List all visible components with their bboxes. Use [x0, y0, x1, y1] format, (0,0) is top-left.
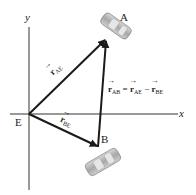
point-e-label: E — [15, 117, 22, 128]
y-axis-label: y — [25, 12, 30, 23]
vector-r-ae — [29, 40, 105, 114]
x-axis-label: x — [179, 108, 184, 119]
equation-r-ab: rAB = rAE − rBE — [108, 85, 163, 95]
vector-diagram — [0, 0, 196, 195]
car-b-icon — [84, 147, 122, 177]
point-a-label: A — [120, 12, 128, 23]
point-b-label: B — [101, 134, 108, 145]
vector-r-ab — [98, 41, 106, 147]
